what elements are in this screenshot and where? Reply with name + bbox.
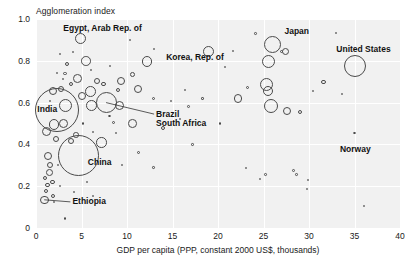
data-point-bubble — [75, 33, 86, 44]
data-point-bubble — [263, 86, 273, 96]
data-point-bubble — [51, 194, 55, 198]
data-point-bubble — [312, 90, 314, 92]
data-point-bubble — [184, 89, 186, 91]
data-point-bubble — [292, 169, 295, 172]
data-point-bubble — [108, 115, 111, 118]
data-point-bubble — [59, 119, 68, 128]
data-point-bubble — [344, 55, 366, 77]
annotation-label: Japan — [284, 26, 309, 36]
data-point-bubble — [53, 201, 55, 203]
data-point-bubble — [47, 162, 53, 168]
data-point-bubble — [353, 132, 355, 134]
data-point-bubble — [234, 94, 242, 102]
data-point-bubble — [142, 56, 153, 67]
data-point-bubble — [53, 136, 59, 142]
data-point-bubble — [78, 92, 86, 100]
data-point-bubble — [72, 51, 74, 53]
data-point-bubble — [254, 32, 257, 35]
annotation-label: South Africa — [156, 118, 206, 128]
data-point-bubble — [219, 122, 221, 124]
annotation-label: Norway — [340, 144, 371, 154]
data-point-bubble — [116, 88, 120, 92]
data-point-bubble — [170, 100, 172, 102]
data-point-bubble — [46, 169, 53, 176]
data-point-bubble — [94, 78, 100, 84]
data-point-bubble — [44, 189, 48, 193]
data-point-bubble — [40, 196, 48, 204]
data-point-bubble — [50, 180, 54, 184]
data-point-bubble — [153, 48, 155, 50]
data-point-bubble — [101, 82, 105, 86]
x-tick-label: 20 — [213, 231, 222, 241]
data-point-bubble — [121, 164, 123, 166]
data-point-bubble — [96, 137, 106, 147]
data-point-bubble — [96, 92, 117, 113]
gridline-horizontal — [36, 228, 400, 229]
data-point-bubble — [130, 72, 135, 77]
data-point-bubble — [246, 86, 249, 89]
x-tick-label: 15 — [168, 231, 177, 241]
gridline-vertical — [264, 19, 265, 228]
chart-root: Agglomeration index 0510152025303540 00.… — [0, 0, 415, 273]
data-point-bubble — [259, 178, 261, 180]
data-point-bubble — [92, 131, 94, 133]
data-point-bubble — [224, 66, 226, 68]
annotation-label: United States — [336, 44, 390, 54]
data-point-bubble — [245, 167, 247, 169]
annotation-label: India — [37, 104, 57, 114]
data-point-bubble — [63, 72, 66, 75]
gridline-vertical — [36, 19, 37, 228]
data-point-bubble — [73, 132, 78, 137]
annotation-label: Brazil — [156, 109, 179, 119]
data-point-bubble — [85, 86, 96, 97]
gridline-vertical — [309, 19, 310, 228]
data-point-bubble — [59, 185, 61, 187]
data-point-bubble — [295, 173, 298, 176]
data-point-bubble — [134, 85, 143, 94]
annotation-label: China — [88, 157, 112, 167]
data-point-bubble — [64, 217, 66, 219]
data-point-bubble — [62, 78, 64, 80]
gridline-horizontal — [36, 19, 400, 20]
data-point-bubble — [262, 55, 275, 68]
data-point-bubble — [117, 77, 125, 85]
annotation-label: Egypt, Arab Rep. of — [63, 23, 142, 33]
data-point-bubble — [44, 152, 52, 160]
data-point-bubble — [335, 32, 337, 34]
x-tick-label: 40 — [395, 231, 404, 241]
data-point-bubble — [112, 121, 115, 124]
data-point-bubble — [232, 50, 234, 52]
data-point-bubble — [65, 62, 70, 67]
y-axis-title: Agglomeration index — [36, 6, 115, 16]
data-point-bubble — [306, 188, 308, 190]
data-point-bubble — [137, 151, 140, 154]
x-tick-label: 30 — [304, 231, 313, 241]
data-point-bubble — [109, 65, 111, 67]
data-point-bubble — [264, 173, 267, 176]
x-tick-label: 5 — [79, 231, 84, 241]
x-tick-label: 35 — [350, 231, 359, 241]
x-axis-title: GDP per capita (PPP, constant 2000 US$, … — [36, 245, 400, 255]
data-point-bubble — [56, 72, 58, 74]
data-point-bubble — [59, 99, 72, 112]
data-point-bubble — [321, 80, 325, 84]
data-point-bubble — [73, 191, 75, 193]
data-point-bubble — [363, 205, 365, 207]
data-point-bubble — [82, 122, 84, 124]
data-point-bubble — [264, 99, 278, 113]
x-tick-label: 10 — [122, 231, 131, 241]
data-point-bubble — [187, 105, 190, 108]
data-point-bubble — [152, 97, 155, 100]
data-point-bubble — [152, 166, 154, 168]
data-point-bubble — [115, 132, 117, 134]
data-point-bubble — [59, 53, 61, 55]
data-point-bubble — [115, 101, 124, 110]
data-point-bubble — [86, 181, 88, 183]
data-point-bubble — [45, 183, 50, 188]
data-point-bubble — [86, 100, 97, 111]
gridline-horizontal — [36, 186, 400, 187]
data-point-bubble — [42, 127, 51, 136]
gridline-vertical — [400, 19, 401, 228]
annotation-label: Korea, Rep. of — [166, 52, 224, 62]
data-point-bubble — [129, 39, 131, 41]
